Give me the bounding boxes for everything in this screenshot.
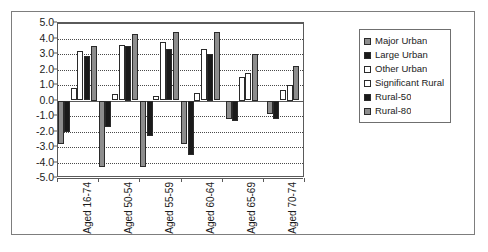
x-tick-mark	[263, 178, 264, 182]
x-tick-mark	[181, 178, 182, 182]
legend-item-label: Rural-50	[375, 92, 411, 102]
legend-item-label: Rural-80	[375, 106, 411, 116]
bar	[84, 56, 90, 101]
bar	[147, 101, 153, 137]
legend-item-label: Other Urban	[375, 64, 427, 74]
legend-swatch-icon	[364, 108, 371, 115]
legend-item-label: Major Urban	[375, 36, 427, 46]
bar	[287, 85, 293, 101]
legend-item[interactable]: Rural-50	[364, 90, 446, 104]
bar	[153, 96, 159, 101]
y-tick-label: -5.0	[24, 172, 54, 183]
y-tick-label: -1.0	[24, 110, 54, 121]
y-tick-label: 0.0	[24, 94, 54, 105]
legend-swatch-icon	[364, 38, 371, 45]
bar	[245, 73, 251, 101]
y-tick-label: 4.0	[24, 32, 54, 43]
bar	[207, 54, 213, 101]
bar-group	[140, 23, 181, 176]
bar	[194, 93, 200, 101]
bar	[105, 101, 111, 127]
bar	[293, 66, 299, 100]
x-axis-labels: Aged 16-74Aged 50-54Aged 55-59Aged 60-64…	[57, 178, 304, 238]
bar	[77, 51, 83, 101]
legend-item-label: Significant Rural	[375, 78, 444, 88]
legend-item[interactable]: Significant Rural	[364, 76, 446, 90]
y-tick-label: -4.0	[24, 156, 54, 167]
bar-group	[58, 23, 99, 176]
y-tick-label: 2.0	[24, 63, 54, 74]
y-tick-label: 5.0	[24, 17, 54, 28]
chart-figure: 5.04.03.02.01.00.0-1.0-2.0-3.0-4.0-5.0 A…	[0, 0, 488, 252]
legend-swatch-icon	[364, 94, 371, 101]
x-tick-label: Aged 16-74	[82, 182, 93, 234]
bar	[252, 54, 258, 101]
x-tick-label: Aged 55-59	[164, 182, 175, 234]
plot-area	[57, 22, 304, 177]
bar	[132, 34, 138, 101]
x-tick-mark	[139, 178, 140, 182]
bar	[188, 101, 194, 155]
bar	[58, 101, 64, 144]
bar	[267, 101, 273, 115]
bar	[71, 88, 77, 100]
bar	[125, 46, 131, 100]
legend-swatch-icon	[364, 66, 371, 73]
bar	[166, 49, 172, 100]
x-tick-mark	[98, 178, 99, 182]
bar	[119, 45, 125, 101]
bar-group	[223, 23, 264, 176]
legend-item[interactable]: Large Urban	[364, 48, 446, 62]
bar	[201, 49, 207, 100]
y-tick-label: 1.0	[24, 79, 54, 90]
bar	[232, 101, 238, 121]
bar	[214, 32, 220, 100]
bar	[181, 101, 187, 144]
bar	[239, 77, 245, 100]
bar	[173, 32, 179, 100]
bar	[64, 101, 70, 132]
bar	[140, 101, 146, 168]
x-tick-label: Aged 50-54	[123, 182, 134, 234]
x-tick-mark	[222, 178, 223, 182]
y-axis-labels: 5.04.03.02.01.00.0-1.0-2.0-3.0-4.0-5.0	[18, 22, 54, 177]
legend-item[interactable]: Rural-80	[364, 104, 446, 118]
bar-group	[182, 23, 223, 176]
bar-group	[264, 23, 305, 176]
x-tick-label: Aged 60-64	[205, 182, 216, 234]
x-tick-label: Aged 70-74	[287, 182, 298, 234]
bar-group	[99, 23, 140, 176]
bar	[160, 42, 166, 101]
y-tick-label: -3.0	[24, 141, 54, 152]
y-tick-label: 3.0	[24, 48, 54, 59]
bar	[226, 101, 232, 120]
legend-item[interactable]: Other Urban	[364, 62, 446, 76]
x-tick-mark	[57, 178, 58, 182]
bar	[91, 46, 97, 100]
bar	[280, 90, 286, 101]
legend-item-label: Large Urban	[375, 50, 428, 60]
bar	[99, 101, 105, 168]
x-tick-label: Aged 65-69	[246, 182, 257, 234]
y-tick-label: -2.0	[24, 125, 54, 136]
bar	[273, 101, 279, 120]
bar	[112, 94, 118, 100]
legend-swatch-icon	[364, 80, 371, 87]
legend-item[interactable]: Major Urban	[364, 34, 446, 48]
legend-swatch-icon	[364, 52, 371, 59]
x-tick-mark	[304, 178, 305, 182]
chart-legend: Major UrbanLarge UrbanOther UrbanSignifi…	[359, 29, 451, 123]
